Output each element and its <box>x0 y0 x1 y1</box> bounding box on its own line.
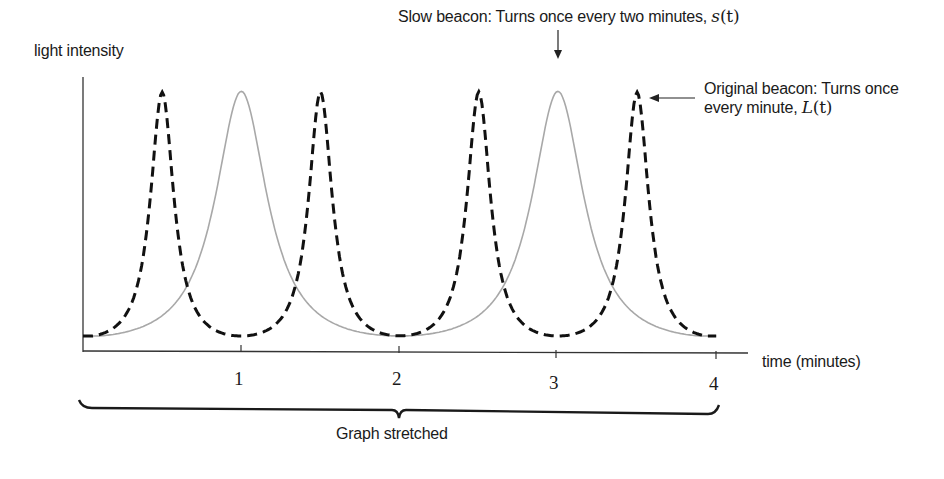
orig-beacon-line2: every minute, L(t) <box>704 98 899 117</box>
x-tick-label-3: 3 <box>549 372 559 394</box>
chart-canvas <box>0 0 944 479</box>
brace <box>79 400 719 418</box>
brace-label: Graph stretched <box>336 425 448 443</box>
x-tick-label-4: 4 <box>709 373 719 395</box>
x-axis <box>83 351 748 353</box>
arrow-left-icon <box>649 94 695 102</box>
x-tick-label-2: 2 <box>392 368 402 390</box>
slow-beacon-annotation: Slow beacon: Turns once every two minute… <box>398 6 739 26</box>
orig-beacon-annotation: Original beacon: Turns once every minute… <box>704 79 899 117</box>
orig-beacon-math-arg: (t) <box>813 97 833 117</box>
slow-beacon-text: Slow beacon: Turns once every two minute… <box>398 8 711 25</box>
x-axis-label: time (minutes) <box>762 353 861 371</box>
slow-beacon-math-fn: s <box>711 6 720 26</box>
orig-beacon-line1: Original beacon: Turns once <box>704 79 899 98</box>
arrow-down-icon <box>554 30 562 59</box>
slow-beacon-math-arg: (t) <box>720 6 740 26</box>
orig-beacon-math-fn: L <box>802 97 813 117</box>
x-tick-label-1: 1 <box>234 368 244 390</box>
y-axis-label: light intensity <box>34 42 124 60</box>
slow-beacon-curve <box>83 91 716 336</box>
orig-beacon-text: every minute, <box>704 99 802 116</box>
